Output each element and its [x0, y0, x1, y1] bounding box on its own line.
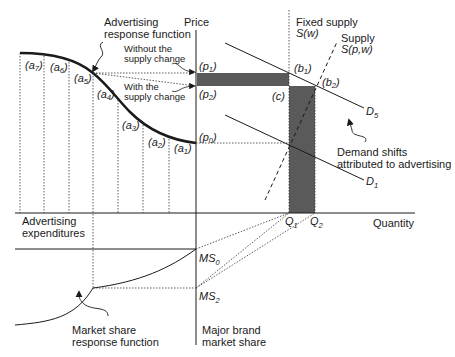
market-share-labels: MS0 MS2	[199, 252, 221, 305]
svg-text:Q2: Q2	[310, 215, 324, 230]
price-level-labels: (p1) (p2) (p0)	[199, 60, 217, 145]
svg-text:(a5): (a5)	[74, 72, 92, 86]
market-share-axis-label-2: market share	[202, 336, 266, 348]
advertising-response-label-2: response function	[104, 28, 191, 40]
svg-text:(a4): (a4)	[97, 88, 115, 102]
demand-shift-arrow	[349, 120, 366, 142]
supply-label-2: S(p,w)	[341, 43, 373, 55]
svg-text:Q1: Q1	[285, 215, 298, 230]
quantity-axis-label: Quantity	[373, 217, 414, 229]
advertising-response-arrow	[93, 42, 103, 71]
svg-text:(a3): (a3)	[122, 119, 140, 133]
market-share-arrow	[79, 292, 108, 316]
svg-text:D1: D1	[366, 175, 378, 190]
svg-text:(c): (c)	[272, 90, 285, 102]
svg-text:(b1): (b1)	[294, 62, 312, 76]
quantity-labels: Q1 Q2	[285, 215, 324, 230]
market-share-response-label-2: response function	[72, 336, 159, 348]
without-supply-label-2: supply change	[124, 53, 185, 64]
advertising-market-diagram: Price Quantity Advertising expenditures …	[0, 0, 455, 357]
fixed-supply-label-2: S(w)	[296, 27, 319, 39]
svg-text:(a6): (a6)	[50, 61, 68, 75]
svg-text:(a7): (a7)	[25, 59, 43, 73]
price-guide-lines	[93, 10, 315, 213]
market-share-response-curve	[15, 249, 196, 325]
price-axis-label: Price	[184, 16, 209, 28]
with-supply-label-2: supply change	[124, 91, 185, 102]
svg-text:(p1): (p1)	[199, 60, 217, 74]
svg-text:(a2): (a2)	[148, 136, 166, 150]
demand-shift-label-2: attributed to advertising	[337, 158, 451, 170]
svg-text:(p2): (p2)	[199, 88, 217, 102]
advertising-level-labels: (a7) (a6) (a5) (a4) (a3) (a2) (a1)	[25, 59, 192, 156]
market-share-axis-label-1: Major brand	[202, 324, 261, 336]
shaded-quantity-band	[289, 86, 315, 213]
market-share-response-label-1: Market share	[72, 324, 136, 336]
demand-shift-label-1: Demand shifts	[337, 146, 408, 158]
without-supply-arrow	[172, 63, 194, 72]
advertising-axis-label-2: expenditures	[22, 227, 85, 239]
svg-text:(a1): (a1)	[174, 142, 192, 156]
advertising-response-label-1: Advertising	[104, 16, 158, 28]
svg-text:(b2): (b2)	[322, 76, 340, 90]
svg-text:D5: D5	[366, 105, 379, 120]
svg-text:MS2: MS2	[199, 290, 221, 305]
svg-text:(p0): (p0)	[199, 131, 217, 145]
svg-text:MS0: MS0	[199, 252, 221, 267]
advertising-axis-label-1: Advertising	[22, 215, 76, 227]
shaded-price-band	[197, 73, 289, 86]
